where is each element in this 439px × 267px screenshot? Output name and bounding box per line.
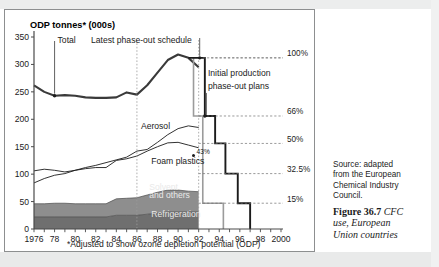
- caption-figure-title-1: CFC: [384, 206, 403, 217]
- annotation-refrigeration: Refrigeration: [151, 209, 200, 219]
- annotation-marker: [192, 154, 195, 157]
- line-total: [34, 55, 199, 98]
- caption-figure-title-2: use, European: [333, 217, 390, 228]
- annotation-marker: [53, 94, 56, 97]
- y-tick-label-50: 50: [19, 197, 29, 207]
- chart-footnote: *Adjusted to show ozone depletion potent…: [67, 239, 261, 249]
- figure-panel: 100%66%50%32.5%15%0501001502002503003501…: [4, 9, 315, 252]
- caption-source-line-1: Source: adapted: [333, 160, 433, 170]
- line-aerosol: [34, 126, 199, 183]
- y-tick-label-300: 300: [15, 59, 30, 69]
- y-tick-label-100: 100: [15, 169, 30, 179]
- y-tick-label-250: 250: [15, 87, 30, 97]
- right-axis-label-15pct: 15%: [287, 195, 303, 204]
- caption-figure-title-3: Union countries: [333, 229, 398, 240]
- x-tick-label-1976: 1976: [24, 234, 43, 244]
- caption-source-line-2: from the European: [333, 170, 433, 180]
- annotation-marker: [198, 56, 201, 59]
- y-tick-label-150: 150: [15, 142, 30, 152]
- annotation-total: Total: [58, 35, 76, 45]
- annotation-initial-plans-line-2: phase-out plans: [208, 81, 269, 91]
- annotation-marker: [203, 114, 206, 117]
- figure-caption: Source: adapted from the European Chemic…: [333, 160, 433, 240]
- right-axis-label-66pct: 66%: [287, 107, 303, 116]
- annotation-aerosol: Aerosol: [141, 121, 170, 131]
- caption-figure-number: Figure 36.7: [333, 206, 381, 217]
- right-axis-label-50pct: 50%: [287, 135, 303, 144]
- y-tick-label-0: 0: [24, 224, 29, 234]
- right-axis-label-100pct: 100%: [287, 49, 308, 58]
- y-tick-label-350: 350: [15, 32, 30, 42]
- page-scan-band-bottom: [0, 252, 439, 267]
- y-tick-label-200: 200: [15, 114, 30, 124]
- y-axis-title: ODP tonnes* (000s): [30, 20, 115, 30]
- right-axis-label-32-5pct: 32.5%: [287, 165, 310, 174]
- caption-source-line-4: Council.: [333, 191, 433, 201]
- annotation-foam-plastics: Foam plastics: [151, 156, 204, 166]
- annotation-latest-phase-out-schedule: Latest phase-out schedule: [91, 35, 192, 45]
- cfc-use-chart: 100%66%50%32.5%15%0501001502002503003501…: [5, 10, 316, 253]
- annotation-initial-plans-line-1: Initial production: [208, 68, 271, 78]
- caption-source-line-3: Chemical Industry: [333, 181, 433, 191]
- annotation-43-percent: 43%: [197, 148, 210, 155]
- annotation-solvent-line-2: and others: [149, 190, 190, 200]
- x-tick-label-2000: 2000: [271, 234, 290, 244]
- page-scan-band-top: [0, 0, 439, 9]
- x-tick-label-1978: 78: [50, 234, 60, 244]
